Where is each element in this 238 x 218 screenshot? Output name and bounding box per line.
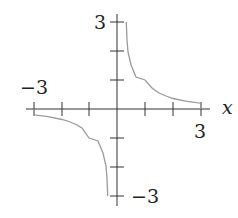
curve-positive-branch [126, 22, 201, 109]
y-min-label: −3 [131, 185, 159, 207]
x-min-label: −3 [20, 76, 48, 98]
hyperbola-plot: 3 −3 −3 3 x [0, 0, 238, 218]
x-axis-label: x [222, 96, 233, 118]
x-max-label: 3 [194, 120, 206, 142]
curve-negative-branch [34, 109, 108, 196]
y-max-label: 3 [94, 11, 106, 33]
